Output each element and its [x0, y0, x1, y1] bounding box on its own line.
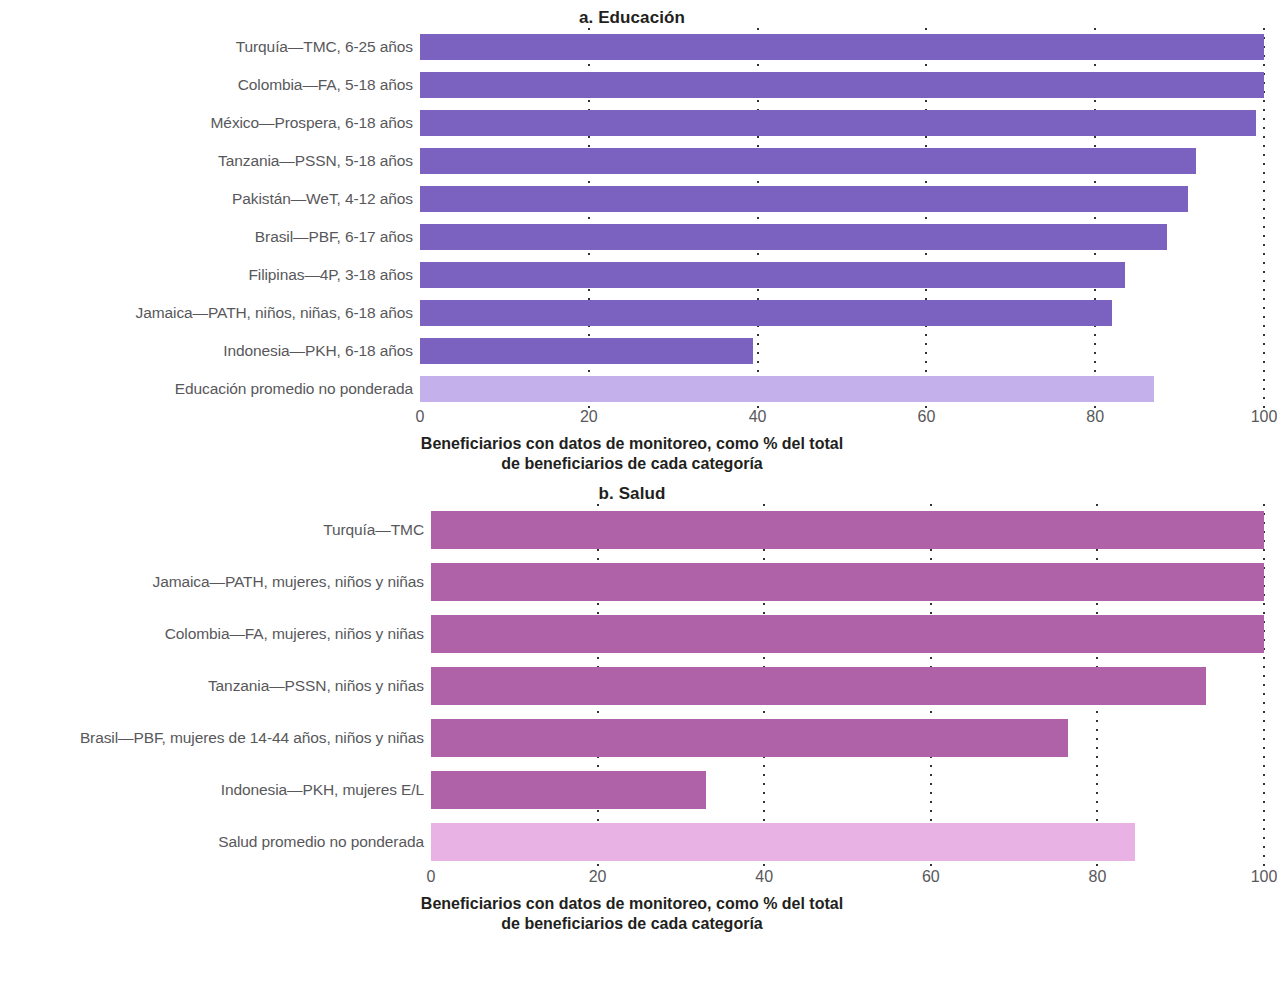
chart-panel-salud: b. Salud Turquía—TMCJamaica—PATH, mujere… — [0, 474, 1264, 934]
bar-category-label: Pakistán—WeT, 4-12 años — [0, 190, 420, 208]
x-axis-title-educacion: Beneficiarios con datos de monitoreo, co… — [0, 434, 1264, 474]
bar-row: México—Prospera, 6-18 años — [0, 104, 1264, 142]
panel-title-salud: b. Salud — [0, 484, 1264, 504]
bar-row: Brasil—PBF, 6-17 años — [0, 218, 1264, 256]
bar-track — [420, 104, 1264, 142]
bar-track — [431, 556, 1264, 608]
bar-row: Tanzania—PSSN, niños y niñas — [0, 660, 1264, 712]
x-axis-salud: 020406080100 Beneficiarios con datos de … — [0, 868, 1264, 934]
bar-category-label: Jamaica—PATH, niños, niñas, 6-18 años — [0, 304, 420, 322]
x-tick-label: 100 — [1251, 408, 1277, 426]
bar-row: Indonesia—PKH, mujeres E/L — [0, 764, 1264, 816]
bar — [420, 338, 753, 364]
bar-category-label: Colombia—FA, mujeres, niños y niñas — [0, 625, 431, 643]
bar-track — [420, 180, 1264, 218]
bar — [420, 148, 1196, 174]
bar-track — [431, 504, 1264, 556]
bar-row: Filipinas—4P, 3-18 años — [0, 256, 1264, 294]
bar-category-label: Jamaica—PATH, mujeres, niños y niñas — [0, 573, 431, 591]
bar — [431, 563, 1264, 601]
bar-category-label: Brasil—PBF, mujeres de 14-44 años, niños… — [0, 729, 431, 747]
bar-rows-educacion: Turquía—TMC, 6-25 añosColombia—FA, 5-18 … — [0, 28, 1264, 408]
bar — [420, 110, 1256, 136]
bar-row: Turquía—TMC, 6-25 años — [0, 28, 1264, 66]
bar — [420, 186, 1188, 212]
bar-category-label: México—Prospera, 6-18 años — [0, 114, 420, 132]
bar-track — [420, 294, 1264, 332]
bar-row: Jamaica—PATH, mujeres, niños y niñas — [0, 556, 1264, 608]
bar-category-label: Tanzania—PSSN, 5-18 años — [0, 152, 420, 170]
bar-category-label: Educación promedio no ponderada — [0, 380, 420, 398]
plot-area-educacion: Turquía—TMC, 6-25 añosColombia—FA, 5-18 … — [0, 28, 1264, 408]
average-bar — [431, 823, 1135, 861]
bar-track — [420, 370, 1264, 408]
bar-category-label: Indonesia—PKH, mujeres E/L — [0, 781, 431, 799]
bar-row: Educación promedio no ponderada — [0, 370, 1264, 408]
bar-row: Turquía—TMC — [0, 504, 1264, 556]
x-tick-label: 80 — [1086, 408, 1104, 426]
bar-category-label: Salud promedio no ponderada — [0, 833, 431, 851]
bar-row: Colombia—FA, 5-18 años — [0, 66, 1264, 104]
bar-track — [431, 712, 1264, 764]
panel-title-educacion: a. Educación — [0, 8, 1264, 28]
bar — [431, 771, 706, 809]
x-axis-title-salud: Beneficiarios con datos de monitoreo, co… — [0, 894, 1264, 934]
bar-track — [431, 764, 1264, 816]
bar — [431, 615, 1264, 653]
bar-track — [420, 332, 1264, 370]
bar-row: Indonesia—PKH, 6-18 años — [0, 332, 1264, 370]
x-axis-title-line-1: Beneficiarios con datos de monitoreo, co… — [0, 894, 1264, 914]
x-tick-label: 60 — [917, 408, 935, 426]
bar — [420, 300, 1112, 326]
bar-track — [431, 660, 1264, 712]
bar-track — [420, 218, 1264, 256]
bar-category-label: Tanzania—PSSN, niños y niñas — [0, 677, 431, 695]
bar-category-label: Turquía—TMC, 6-25 años — [0, 38, 420, 56]
x-axis-title-line-1: Beneficiarios con datos de monitoreo, co… — [0, 434, 1264, 454]
bar — [431, 667, 1206, 705]
x-axis-ticks-educacion: 020406080100 — [0, 408, 1264, 434]
bar-category-label: Colombia—FA, 5-18 años — [0, 76, 420, 94]
x-tick-label: 40 — [749, 408, 767, 426]
bar — [420, 34, 1264, 60]
bar-row: Tanzania—PSSN, 5-18 años — [0, 142, 1264, 180]
x-tick-label: 20 — [589, 868, 607, 886]
bar — [420, 72, 1264, 98]
bar-category-label: Turquía—TMC — [0, 521, 431, 539]
x-tick-label: 80 — [1088, 868, 1106, 886]
x-axis-title-line-2: de beneficiarios de cada categoría — [0, 914, 1264, 934]
bar-row: Brasil—PBF, mujeres de 14-44 años, niños… — [0, 712, 1264, 764]
bar — [431, 719, 1068, 757]
bar-category-label: Indonesia—PKH, 6-18 años — [0, 342, 420, 360]
bar — [420, 262, 1125, 288]
bar-track — [431, 816, 1264, 868]
bar-row: Pakistán—WeT, 4-12 años — [0, 180, 1264, 218]
bar — [420, 224, 1167, 250]
average-bar — [420, 376, 1154, 402]
bar-track — [420, 66, 1264, 104]
x-tick-label: 0 — [416, 408, 425, 426]
bar-track — [420, 256, 1264, 294]
bar-category-label: Filipinas—4P, 3-18 años — [0, 266, 420, 284]
bar-track — [431, 608, 1264, 660]
x-axis-educacion: 020406080100 Beneficiarios con datos de … — [0, 408, 1264, 474]
x-tick-label: 40 — [755, 868, 773, 886]
chart-panel-educacion: a. Educación Turquía—TMC, 6-25 añosColom… — [0, 0, 1264, 474]
x-tick-label: 60 — [922, 868, 940, 886]
bar-row: Jamaica—PATH, niños, niñas, 6-18 años — [0, 294, 1264, 332]
bar-row: Salud promedio no ponderada — [0, 816, 1264, 868]
bar-rows-salud: Turquía—TMCJamaica—PATH, mujeres, niños … — [0, 504, 1264, 868]
plot-area-salud: Turquía—TMCJamaica—PATH, mujeres, niños … — [0, 504, 1264, 868]
bar-row: Colombia—FA, mujeres, niños y niñas — [0, 608, 1264, 660]
x-axis-title-line-2: de beneficiarios de cada categoría — [0, 454, 1264, 474]
x-axis-ticks-salud: 020406080100 — [0, 868, 1264, 894]
bar-track — [420, 142, 1264, 180]
bar-category-label: Brasil—PBF, 6-17 años — [0, 228, 420, 246]
x-tick-label: 20 — [580, 408, 598, 426]
x-tick-label: 100 — [1251, 868, 1277, 886]
bar — [431, 511, 1264, 549]
bar-track — [420, 28, 1264, 66]
x-tick-label: 0 — [427, 868, 436, 886]
